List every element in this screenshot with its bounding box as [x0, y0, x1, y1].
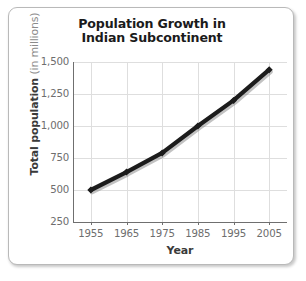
- x-axis-tick-labels: 195519651975198519952005: [73, 228, 287, 242]
- x-axis-tick-marks: [73, 222, 287, 226]
- x-axis-tick-mark: [269, 222, 270, 225]
- chart-title: Population Growth in Indian Subcontinent: [9, 17, 295, 44]
- population-line: [91, 70, 269, 190]
- x-axis-tick-mark: [127, 222, 128, 225]
- x-axis-tick-mark: [162, 222, 163, 225]
- y-axis-tick-label: 1,000: [25, 121, 69, 131]
- x-axis-tick-mark: [234, 222, 235, 225]
- y-axis-tick-label: 250: [25, 217, 69, 227]
- y-axis-tick-label: 750: [25, 153, 69, 163]
- plot-area: [73, 62, 287, 222]
- x-axis-tick-mark: [91, 222, 92, 225]
- population-line-series: [73, 62, 287, 222]
- y-axis-tick-labels: 2505007501,0001,2501,500: [21, 62, 69, 222]
- y-axis-tick-label: 500: [25, 185, 69, 195]
- y-axis-tick-label: 1,500: [25, 57, 69, 67]
- x-axis-title: Year: [73, 244, 287, 257]
- chart-title-line-1: Population Growth in: [9, 17, 295, 31]
- chart-title-line-2: Indian Subcontinent: [9, 31, 295, 45]
- y-axis-tick-label: 1,250: [25, 89, 69, 99]
- x-axis-tick-mark: [198, 222, 199, 225]
- x-axis-tick-label: 2005: [246, 228, 292, 240]
- chart-card: Population Growth in Indian Subcontinent…: [8, 7, 294, 265]
